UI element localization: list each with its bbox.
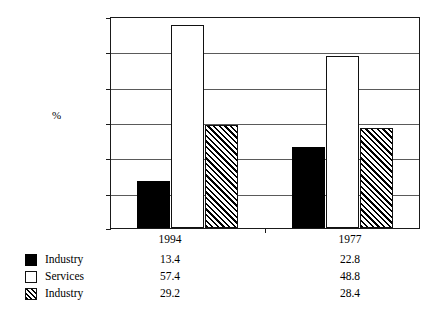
bar-1977-industry-hatch [360,128,393,228]
value-1977-services: 48.8 [310,269,390,284]
y-tick-mark-20 [106,159,111,160]
legend-value-table: Industry 13.4 22.8 Services 57.4 48.8 In… [0,252,435,303]
gridline-50 [111,53,419,54]
y-tick-mark-0 [106,229,111,230]
legend-row-services: Services 57.4 48.8 [0,269,435,286]
y-tick-mark-10 [106,195,111,196]
solid-black-swatch-icon [25,254,37,266]
bar-1977-industry-solid [292,147,325,228]
chart-plot-area [110,17,420,229]
bar-1994-services [171,25,204,228]
value-1994-services: 57.4 [130,269,210,284]
gridline-30 [111,124,419,125]
value-1994-industry-solid: 13.4 [130,252,210,267]
y-tick-mark-50 [106,53,111,54]
legend-label-services: Services [45,269,84,284]
legend-label-industry-solid: Industry [45,252,83,267]
y-axis-title: % [52,110,61,121]
bar-1977-services [326,56,359,228]
white-outline-swatch-icon [25,271,37,283]
bar-1994-industry-hatch [205,125,238,228]
value-1977-industry-hatch: 28.4 [310,286,390,301]
x-axis-group-separator-tick [265,228,266,233]
value-1977-industry-solid: 22.8 [310,252,390,267]
y-tick-mark-40 [106,89,111,90]
legend-row-industry-solid: Industry 13.4 22.8 [0,252,435,269]
legend-label-industry-hatch: Industry [45,286,83,301]
bar-1994-industry-solid [137,181,170,228]
x-axis-label-1994: 1994 [130,234,210,246]
y-tick-mark-30 [106,124,111,125]
diagonal-hatch-swatch-icon [25,288,37,300]
legend-row-industry-hatch: Industry 29.2 28.4 [0,286,435,303]
value-1994-industry-hatch: 29.2 [130,286,210,301]
gridline-40 [111,89,419,90]
y-tick-mark-60 [106,18,111,19]
x-axis-label-1977: 1977 [310,234,390,246]
